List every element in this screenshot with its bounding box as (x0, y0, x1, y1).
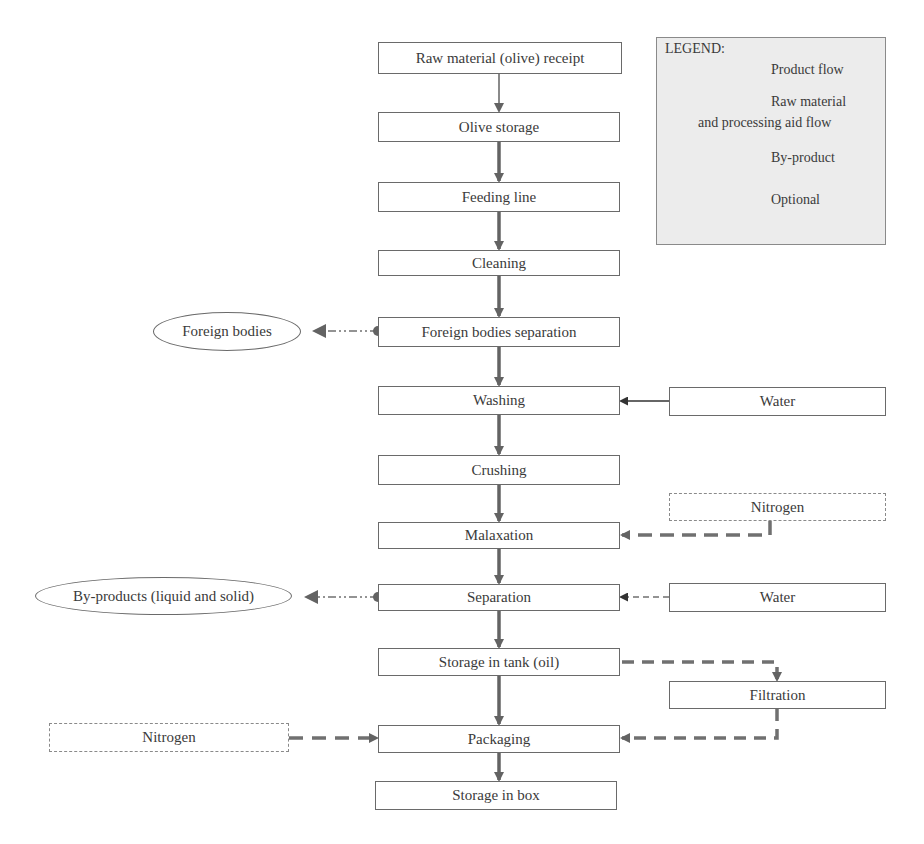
input-water-separation: Water (669, 583, 886, 612)
step-foreign-bodies-separation: Foreign bodies separation (378, 317, 620, 347)
by-product-arrows (306, 331, 378, 597)
step-cleaning: Cleaning (378, 250, 620, 276)
step-separation: Separation (378, 584, 620, 611)
step-packaging: Packaging (378, 725, 620, 753)
step-olive-storage: Olive storage (378, 112, 620, 142)
step-storage-in-tank: Storage in tank (oil) (378, 648, 620, 676)
step-crushing: Crushing (378, 455, 620, 485)
step-raw-material-receipt: Raw material (olive) receipt (378, 42, 622, 74)
by-product-liquid-solid: By-products (liquid and solid) (35, 577, 292, 615)
step-feeding-line: Feeding line (378, 182, 620, 212)
step-storage-in-box: Storage in box (375, 781, 617, 810)
legend-raw-material-label-2: and processing aid flow (698, 115, 831, 131)
legend-product-flow-label: Product flow (771, 62, 844, 78)
step-filtration: Filtration (669, 681, 886, 709)
input-nitrogen-malaxation: Nitrogen (669, 493, 886, 521)
legend-raw-material-label: Raw material (771, 94, 846, 110)
olive-oil-process-flowchart: Raw material (olive) receipt Olive stora… (0, 0, 924, 844)
legend-optional-label: Optional (771, 192, 820, 208)
nitrogen-to-malaxation-arrow (622, 521, 770, 535)
step-washing: Washing (378, 386, 620, 415)
step-malaxation: Malaxation (378, 522, 620, 549)
legend-by-product-label: By-product (771, 150, 835, 166)
by-product-foreign-bodies: Foreign bodies (153, 312, 301, 351)
legend-title: LEGEND: (665, 41, 725, 57)
input-water-washing: Water (669, 387, 886, 416)
input-nitrogen-packaging: Nitrogen (49, 723, 289, 752)
